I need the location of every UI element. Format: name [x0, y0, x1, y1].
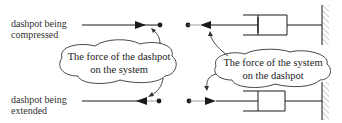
top-row-dashpot-side: [186, 5, 329, 45]
label-compressed: dashpot being compressed: [11, 18, 67, 40]
bottom-row-system-side: [82, 97, 161, 105]
pointer-arrow-up: [153, 30, 160, 44]
arrowhead-right-icon: [135, 21, 146, 29]
wall-hatch: [322, 82, 329, 120]
callout-line: The force of the dashpot: [64, 50, 174, 63]
label-line: compressed: [11, 29, 67, 40]
pointer-arrow-down: [207, 74, 216, 88]
callout-right-text: The force of the system on the dashpot: [216, 56, 330, 82]
callout-line: on the system: [64, 63, 174, 76]
label-line: dashpot being: [11, 18, 67, 29]
callout-left-text: The force of the dashpot on the system: [64, 50, 174, 76]
callout-line: The force of the system: [216, 56, 330, 69]
label-line: extended: [11, 105, 67, 116]
node-dot: [158, 23, 163, 28]
label-line: dashpot being: [11, 94, 67, 105]
wall-hatch: [322, 5, 329, 45]
node-dot: [157, 99, 162, 104]
label-extended: dashpot being extended: [11, 94, 67, 116]
arrowhead-left-icon: [200, 21, 211, 29]
callout-line: on the dashpot: [216, 69, 330, 82]
top-row-system-side: [82, 21, 162, 29]
arrowhead-right-icon: [205, 97, 216, 105]
arrowhead-left-icon: [136, 97, 147, 105]
pointer-arrow-up: [210, 34, 228, 56]
